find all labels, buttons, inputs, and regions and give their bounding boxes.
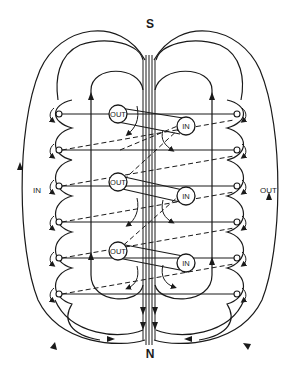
pole-label-south: S	[146, 17, 154, 31]
conductor-upper-right: IN	[177, 117, 195, 135]
pole-label-north: N	[146, 347, 155, 361]
conductor-lower-left: OUT	[109, 242, 127, 260]
svg-text:OUT: OUT	[110, 110, 126, 119]
conductor-lower-right: IN	[177, 254, 195, 272]
conductor-upper-left: OUT	[109, 105, 127, 123]
svg-text:OUT: OUT	[110, 178, 126, 187]
central-bundle	[143, 55, 155, 345]
terminal-rotation-arrows	[50, 108, 246, 301]
coil-field-diagram: OUT IN OUT IN OUT IN	[0, 0, 299, 378]
svg-text:IN: IN	[182, 192, 190, 201]
horizontal-wires	[62, 114, 234, 294]
conductor-middle-left: OUT	[109, 173, 127, 191]
side-label-out: OUT	[260, 186, 277, 195]
coil-wave-left	[56, 100, 101, 340]
conductor-middle-right: IN	[177, 187, 195, 205]
svg-text:OUT: OUT	[110, 247, 126, 256]
svg-text:IN: IN	[182, 122, 190, 131]
terminals-right	[234, 111, 240, 297]
dashed-wires	[62, 120, 234, 294]
side-label-in: IN	[33, 186, 41, 195]
conductor-links	[118, 108, 183, 270]
svg-text:IN: IN	[182, 259, 190, 268]
